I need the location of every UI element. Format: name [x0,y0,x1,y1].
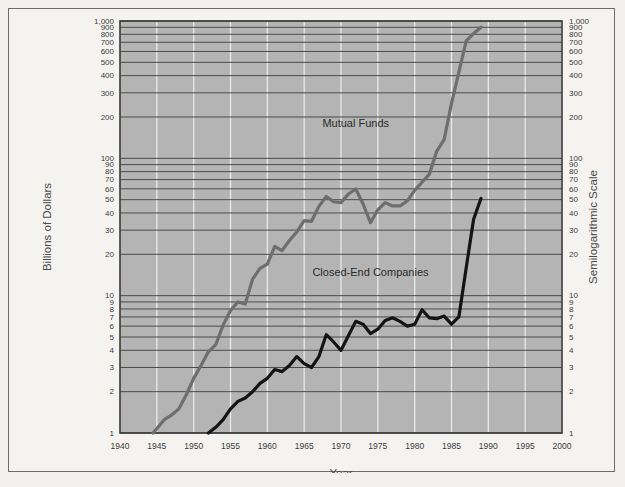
y-tick-label-left: 50 [105,195,114,204]
y-tick-label-left: 400 [101,71,115,80]
y-tick-label-right: 7 [569,313,574,322]
y-tick-label-left: 70 [105,175,114,184]
x-tick-label: 1980 [405,441,424,451]
y-tick-label-left: 300 [101,89,115,98]
y-tick-label-right: 300 [569,89,583,98]
y-tick-label-right: 1 [569,429,574,438]
chart-plot-area: 1122334455667788991010202030304040505060… [9,9,616,473]
y-tick-label-left: 1,000 [94,17,115,26]
x-tick-label: 1970 [332,441,351,451]
x-tick-label: 1985 [442,441,461,451]
y-tick-label-left: 20 [105,250,114,259]
x-tick-label: 1945 [147,441,166,451]
y-tick-label-left: 60 [105,185,114,194]
x-tick-label: 1990 [479,441,498,451]
y-tick-label-right: 5 [569,333,574,342]
x-axis-title: Year [329,467,352,473]
y-tick-label-right: 400 [569,71,583,80]
y-tick-label-left: 40 [105,209,114,218]
y-tick-label-right: 40 [569,209,578,218]
x-tick-label: 2000 [553,441,572,451]
x-tick-label: 1940 [111,441,130,451]
y-tick-label-left: 1 [110,429,115,438]
series-label: Mutual Funds [322,117,389,129]
y-axis-title-right: Semilogarithmic Scale [587,170,599,284]
y-tick-label-right: 50 [569,195,578,204]
x-tick-label: 1950 [184,441,203,451]
y-tick-label-right: 1,000 [569,17,590,26]
y-tick-label-left: 2 [110,387,115,396]
x-tick-label: 1995 [516,441,535,451]
y-tick-label-left: 200 [101,113,115,122]
y-tick-label-right: 70 [569,175,578,184]
y-tick-label-right: 200 [569,113,583,122]
y-tick-label-right: 2 [569,387,574,396]
y-tick-label-right: 600 [569,47,583,56]
series-label: Closed-End Companies [312,266,429,278]
y-tick-label-right: 700 [569,38,583,47]
x-tick-label: 1960 [258,441,277,451]
y-tick-label-right: 20 [569,250,578,259]
y-tick-label-right: 60 [569,185,578,194]
y-tick-label-right: 6 [569,322,574,331]
y-tick-label-left: 4 [110,346,115,355]
y-tick-label-left: 7 [110,313,115,322]
y-tick-label-left: 10 [105,291,114,300]
x-tick-label: 1955 [221,441,240,451]
y-tick-label-left: 600 [101,47,115,56]
y-axis-title-left: Billions of Dollars [41,183,53,271]
y-tick-label-left: 5 [110,333,115,342]
y-tick-label-left: 100 [101,154,115,163]
y-tick-label-left: 6 [110,322,115,331]
y-tick-label-left: 700 [101,38,115,47]
y-tick-label-left: 500 [101,58,115,67]
semilog-line-chart: 1122334455667788991010202030304040505060… [9,9,616,473]
y-tick-label-right: 30 [569,226,578,235]
y-tick-label-left: 3 [110,363,115,372]
x-tick-label: 1965 [295,441,314,451]
y-tick-label-right: 100 [569,154,583,163]
x-tick-label: 1975 [368,441,387,451]
chart-figure: 1122334455667788991010202030304040505060… [8,8,615,472]
y-tick-label-left: 30 [105,226,114,235]
y-tick-label-right: 500 [569,58,583,67]
y-tick-label-right: 3 [569,363,574,372]
y-tick-label-right: 10 [569,291,578,300]
y-tick-label-right: 4 [569,346,574,355]
